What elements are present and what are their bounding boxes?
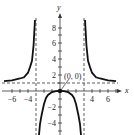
x-axis-label: x (124, 86, 129, 95)
x-tick-label: −4 (24, 95, 33, 104)
point-label: (0, 0) (64, 72, 82, 81)
x-tick-label: −6 (8, 95, 17, 104)
y-tick-label: 2 (52, 71, 56, 80)
x-tick-label: 6 (106, 95, 110, 104)
y-tick-label: −2 (47, 103, 56, 112)
y-tick-label: 8 (52, 24, 56, 33)
y-tick-label: −4 (47, 119, 56, 128)
curve-right-branch (85, 20, 116, 81)
curve-left-branch (4, 20, 35, 81)
x-axis-arrow-icon (117, 89, 122, 93)
y-tick-label: 4 (52, 55, 56, 64)
x-tick-label: 4 (90, 95, 94, 104)
y-axis-label: y (56, 3, 61, 12)
y-axis-arrow-icon (58, 13, 62, 18)
y-tick-label: 6 (52, 39, 56, 48)
chart: −6 −4 4 6 8 6 4 2 −2 −4 x y (0, 0) (0, 0, 134, 135)
